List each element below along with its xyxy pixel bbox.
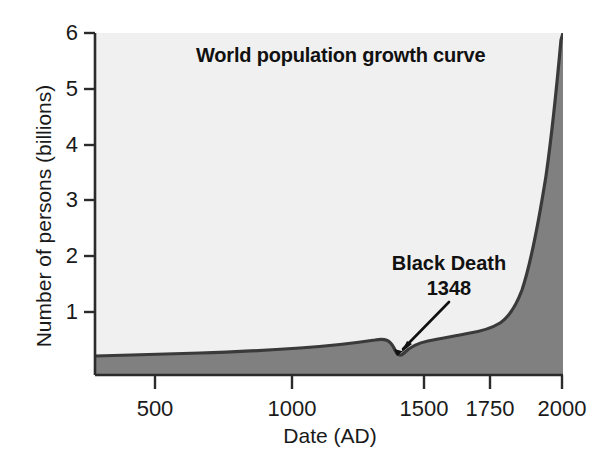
y-axis-ticks	[84, 33, 95, 312]
annotation-black-death-label: Black Death	[374, 252, 524, 275]
x-axis-title: Date (AD)	[230, 424, 430, 448]
ytick-label-6: 6	[46, 20, 78, 46]
xtick-label-1750: 1750	[466, 396, 515, 422]
xtick-label-2000: 2000	[538, 396, 587, 422]
x-axis-ticks	[155, 375, 562, 389]
xtick-label-1500: 1500	[400, 396, 449, 422]
figure-root: World population growth curve Black Deat…	[0, 0, 604, 462]
plot-area-background	[95, 33, 563, 375]
y-axis-title: Number of persons (billions)	[32, 46, 56, 386]
xtick-label-1000: 1000	[268, 396, 317, 422]
xtick-label-500: 500	[137, 396, 174, 422]
chart-title: World population growth curve	[196, 44, 485, 67]
annotation-black-death-year: 1348	[374, 277, 524, 300]
population-growth-chart	[0, 0, 604, 462]
